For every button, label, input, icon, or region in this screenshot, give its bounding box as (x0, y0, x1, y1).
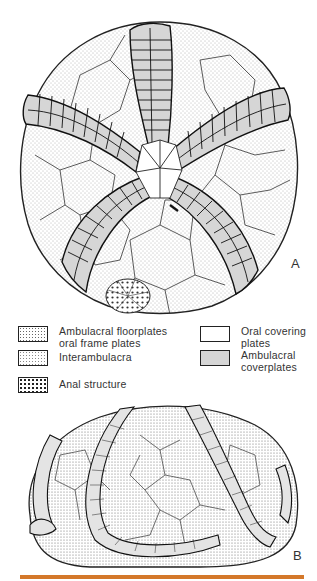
legend-label: Oral covering plates (241, 325, 306, 349)
legend-label: Ambulacral floorplates oral frame plates (59, 325, 167, 349)
figure-bottom-rule (20, 575, 304, 579)
legend-oral-covering-plates: Oral covering plates (200, 325, 306, 349)
panel-a-label: A (291, 256, 300, 271)
legend-interambulacra: Interambulacra (18, 349, 132, 366)
swatch-light-stipple (18, 350, 48, 366)
legend-ambulacral-floorplates: Ambulacral floorplates oral frame plates (18, 325, 167, 349)
legend-anal-structure: Anal structure (18, 376, 127, 393)
panel-b-label: B (293, 548, 302, 563)
swatch-fine-stipple (18, 326, 48, 342)
anal-structure (106, 279, 150, 313)
swatch-coarse-dots (18, 377, 48, 393)
legend-label: Anal structure (59, 378, 127, 390)
figure-a-oral-view (0, 0, 317, 320)
swatch-grey (200, 350, 230, 366)
figure-b-lateral-view (0, 395, 317, 581)
swatch-white (200, 326, 230, 342)
legend-label: Ambulacral coverplates (241, 349, 297, 373)
legend-ambulacral-coverplates: Ambulacral coverplates (200, 349, 297, 373)
legend-label: Interambulacra (59, 351, 132, 363)
